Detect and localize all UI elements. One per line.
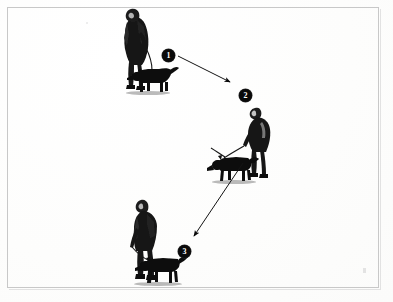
figure-root: 1 2 3 bbox=[0, 0, 393, 302]
stage-2-illustration bbox=[207, 108, 270, 184]
scan-artifact-speck-secondary bbox=[86, 22, 88, 24]
scene-illustration bbox=[0, 0, 393, 302]
scan-artifact-speck bbox=[363, 268, 366, 273]
stage-marker-2: 2 bbox=[239, 89, 252, 102]
stage-3-illustration bbox=[130, 200, 188, 286]
arrow-1-to-2 bbox=[178, 56, 230, 82]
stage-marker-1: 1 bbox=[162, 49, 175, 62]
arrow-2-to-3 bbox=[194, 163, 243, 236]
stage-marker-3: 3 bbox=[178, 245, 191, 258]
